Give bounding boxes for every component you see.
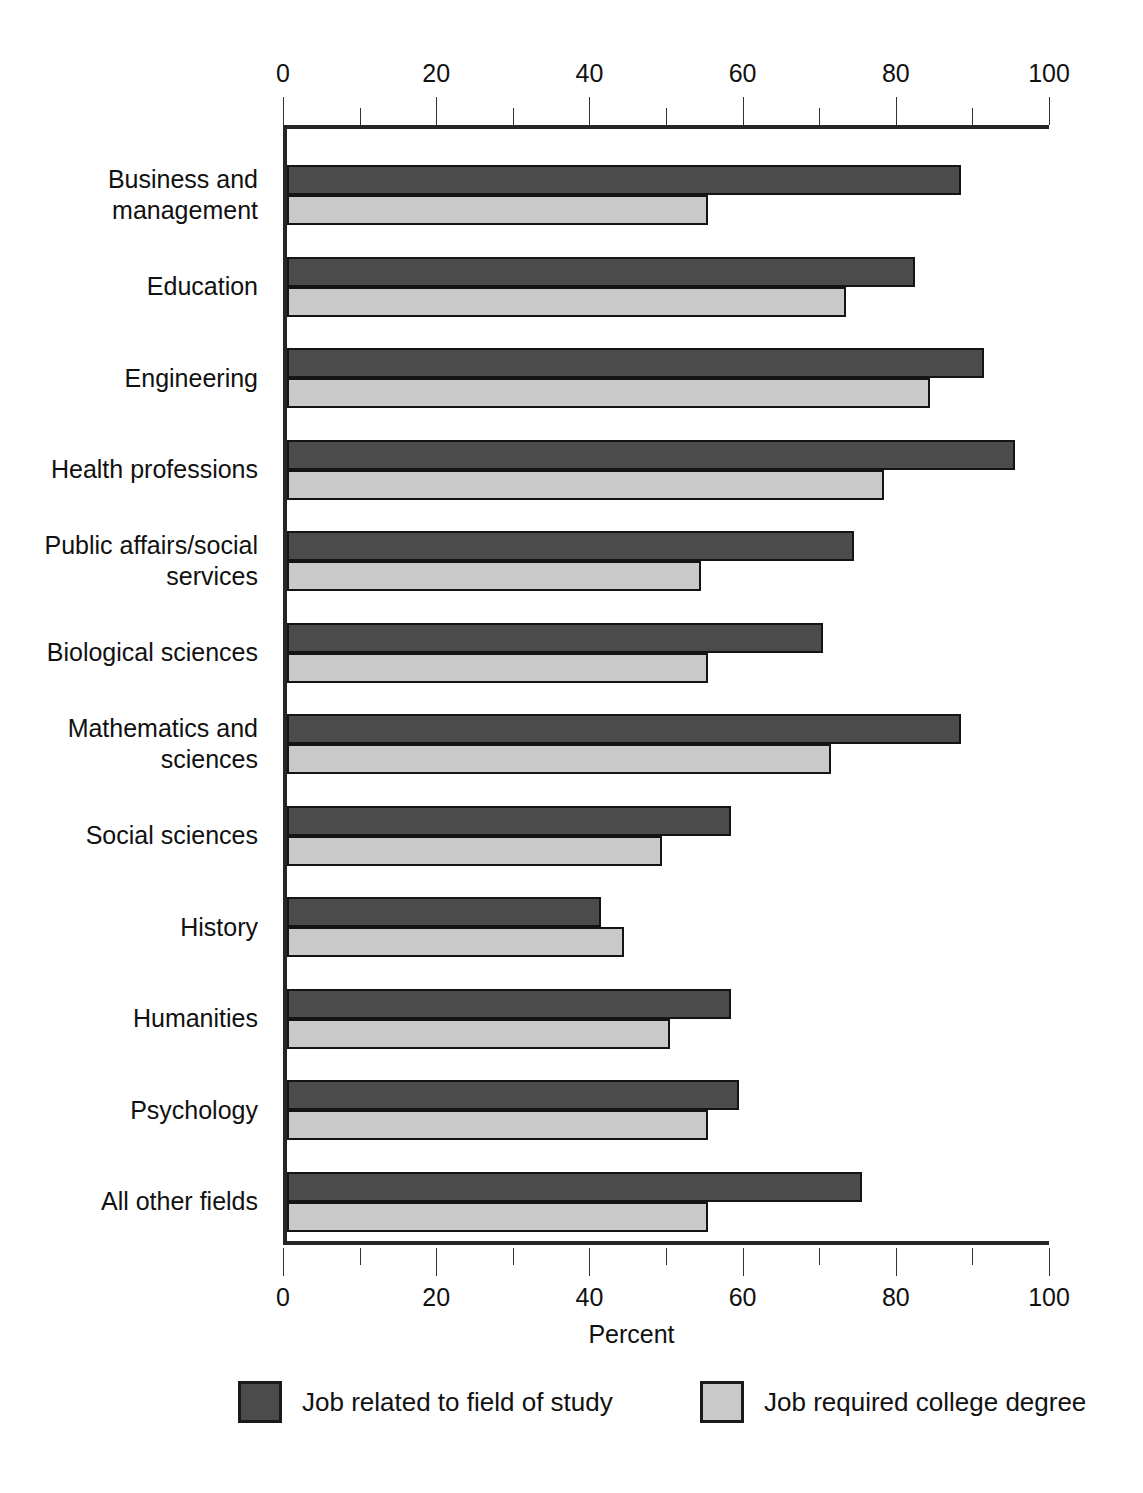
axis-tick-label: 60 [729, 58, 757, 88]
bar [287, 927, 624, 957]
legend-item-job-related[interactable]: Job related to field of study [238, 1378, 613, 1426]
bar [287, 378, 930, 408]
axis-tick-minor [513, 1248, 514, 1265]
axis-tick-minor [360, 1248, 361, 1265]
axis-tick-major [743, 97, 744, 125]
axis-tick-label: 60 [729, 1282, 757, 1312]
bar-group [287, 165, 1049, 225]
bar-group [287, 1080, 1049, 1140]
bar [287, 257, 915, 287]
category-label: Engineering [0, 363, 258, 394]
category-label-line: Humanities [0, 1003, 258, 1034]
category-label-line: Psychology [0, 1095, 258, 1126]
bottom-axis-tickmarks [283, 1248, 1049, 1276]
bar [287, 897, 601, 927]
category-label: All other fields [0, 1186, 258, 1217]
bar [287, 714, 961, 744]
bar [287, 806, 731, 836]
category-label-line: Biological sciences [0, 637, 258, 668]
bar [287, 1019, 670, 1049]
category-label: Biological sciences [0, 637, 258, 668]
bar [287, 195, 708, 225]
top-axis-tickmarks [283, 97, 1049, 125]
bar [287, 1202, 708, 1232]
bar [287, 836, 662, 866]
axis-tick-minor [666, 1248, 667, 1265]
axis-tick-label: 0 [276, 1282, 290, 1312]
bar-group [287, 989, 1049, 1049]
axis-tick-major [589, 97, 590, 125]
axis-tick-label: 100 [1028, 1282, 1070, 1312]
category-label-line: All other fields [0, 1186, 258, 1217]
axis-tick-label: 0 [276, 58, 290, 88]
axis-tick-minor [819, 1248, 820, 1265]
bar-group [287, 623, 1049, 683]
axis-tick-minor [513, 108, 514, 125]
bar [287, 287, 846, 317]
axis-tick-label: 80 [882, 1282, 910, 1312]
category-label: Public affairs/socialservices [0, 530, 258, 592]
category-label-line: sciences [0, 744, 258, 775]
bar [287, 561, 701, 591]
bar-group [287, 897, 1049, 957]
axis-tick-major [1049, 1248, 1050, 1276]
category-label: Social sciences [0, 820, 258, 851]
axis-tick-minor [972, 1248, 973, 1265]
axis-tick-label: 40 [575, 1282, 603, 1312]
bar-group [287, 257, 1049, 317]
axis-tick-major [436, 97, 437, 125]
legend-item-degree-required[interactable]: Job required college degree [700, 1378, 1086, 1426]
category-label: Mathematics andsciences [0, 713, 258, 775]
axis-tick-label: 20 [422, 58, 450, 88]
axis-tick-label: 100 [1028, 58, 1070, 88]
axis-tick-minor [972, 108, 973, 125]
category-label: Psychology [0, 1095, 258, 1126]
dark-swatch-icon [238, 1381, 282, 1423]
category-axis-labels: Business andmanagementEducationEngineeri… [0, 125, 272, 1245]
bar [287, 989, 731, 1019]
category-label-line: Social sciences [0, 820, 258, 851]
bar-group [287, 440, 1049, 500]
bar-group [287, 1172, 1049, 1232]
axis-tick-label: 80 [882, 58, 910, 88]
axis-tick-major [436, 1248, 437, 1276]
bar-group [287, 348, 1049, 408]
bar [287, 744, 831, 774]
bar [287, 623, 823, 653]
category-label: History [0, 912, 258, 943]
bar-group [287, 806, 1049, 866]
axis-tick-minor [360, 108, 361, 125]
legend-label: Job required college degree [764, 1387, 1086, 1418]
bar [287, 1172, 862, 1202]
axis-tick-major [743, 1248, 744, 1276]
bar [287, 348, 984, 378]
x-axis-title: Percent [0, 1320, 1143, 1349]
bar [287, 653, 708, 683]
category-label-line: Public affairs/social [0, 530, 258, 561]
axis-tick-major [283, 1248, 284, 1276]
category-label-line: Mathematics and [0, 713, 258, 744]
category-label-line: Education [0, 271, 258, 302]
category-label-line: management [0, 195, 258, 226]
axis-tick-label: 40 [575, 58, 603, 88]
bar-groups [287, 125, 1049, 1245]
category-label-line: services [0, 561, 258, 592]
bar [287, 1080, 739, 1110]
axis-tick-label: 20 [422, 1282, 450, 1312]
chart-legend: Job related to field of study Job requir… [0, 1378, 1143, 1438]
bar [287, 165, 961, 195]
axis-tick-major [896, 1248, 897, 1276]
legend-label: Job related to field of study [302, 1387, 613, 1418]
bottom-axis-tick-labels: 020406080100 [283, 1282, 1049, 1316]
bar [287, 440, 1015, 470]
x-axis-title-text: Percent [588, 1320, 674, 1348]
horizontal-bar-chart: 020406080100 Business andmanagementEduca… [0, 0, 1143, 1493]
axis-tick-major [1049, 97, 1050, 125]
axis-tick-minor [666, 108, 667, 125]
category-label-line: Health professions [0, 454, 258, 485]
bar [287, 531, 854, 561]
top-axis-tick-labels: 020406080100 [283, 58, 1049, 88]
category-label-line: Business and [0, 164, 258, 195]
category-label-line: Engineering [0, 363, 258, 394]
category-label: Business andmanagement [0, 164, 258, 226]
